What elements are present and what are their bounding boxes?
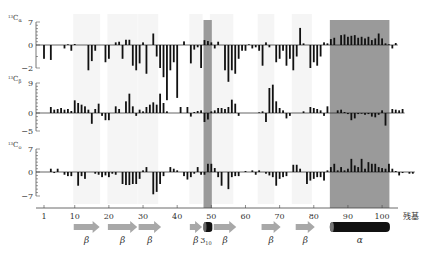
y-axis-label: 13Co bbox=[8, 141, 21, 150]
bar bbox=[176, 170, 178, 172]
bar bbox=[111, 172, 113, 174]
bar bbox=[306, 172, 308, 184]
bar bbox=[361, 159, 363, 172]
bar bbox=[207, 164, 209, 172]
bar bbox=[357, 38, 359, 45]
bar bbox=[214, 110, 216, 113]
bar bbox=[204, 40, 206, 45]
x-tick-label: 1 bbox=[41, 212, 46, 221]
bar bbox=[398, 110, 400, 113]
bar bbox=[190, 45, 192, 63]
bar bbox=[70, 172, 72, 176]
bar bbox=[371, 40, 373, 45]
bar bbox=[313, 172, 315, 179]
bar bbox=[221, 172, 223, 186]
bar bbox=[296, 45, 298, 57]
bar bbox=[152, 34, 154, 46]
bar bbox=[275, 101, 277, 113]
bar bbox=[67, 44, 69, 45]
bar bbox=[118, 109, 120, 113]
bar bbox=[275, 45, 277, 62]
bar bbox=[67, 109, 69, 113]
bar bbox=[391, 109, 393, 113]
bar bbox=[275, 172, 277, 186]
bar bbox=[139, 45, 141, 63]
bar bbox=[279, 172, 281, 179]
bar bbox=[108, 45, 110, 59]
bar bbox=[221, 108, 223, 113]
bar bbox=[84, 106, 86, 113]
bar bbox=[320, 110, 322, 113]
x-tick-label: 30 bbox=[138, 212, 148, 221]
bar bbox=[43, 45, 45, 59]
bar bbox=[378, 113, 380, 115]
bar bbox=[180, 107, 182, 113]
bar bbox=[50, 107, 52, 113]
bar bbox=[159, 45, 161, 68]
bar bbox=[292, 45, 294, 70]
bar bbox=[169, 45, 171, 70]
ylabel-sub: β bbox=[18, 78, 21, 85]
bar bbox=[74, 100, 76, 113]
bar bbox=[166, 45, 168, 100]
bar bbox=[139, 172, 141, 179]
bar bbox=[128, 172, 130, 185]
bar bbox=[156, 105, 158, 113]
bar bbox=[350, 159, 352, 172]
bar bbox=[142, 170, 144, 172]
bar bbox=[344, 112, 346, 113]
bar bbox=[159, 94, 161, 113]
bar bbox=[344, 170, 346, 172]
light-band bbox=[138, 14, 158, 204]
strand-label: β bbox=[83, 235, 89, 245]
bar bbox=[303, 111, 305, 113]
bar bbox=[286, 113, 288, 118]
bar bbox=[316, 109, 318, 113]
secondary-structure-track: ββββ310βββα bbox=[74, 221, 390, 246]
bar bbox=[316, 172, 318, 177]
bar bbox=[228, 107, 230, 113]
bar bbox=[173, 169, 175, 172]
bar bbox=[108, 172, 110, 177]
bar bbox=[156, 45, 158, 57]
bar bbox=[327, 106, 329, 113]
bar bbox=[74, 44, 76, 45]
bar bbox=[354, 113, 356, 118]
bar bbox=[234, 172, 236, 176]
bar bbox=[101, 113, 103, 116]
bar bbox=[115, 106, 117, 113]
bar bbox=[169, 167, 171, 172]
x-tick-label: 60 bbox=[240, 212, 250, 221]
bar bbox=[64, 45, 66, 48]
bar bbox=[258, 170, 260, 172]
bar bbox=[344, 34, 346, 45]
bar bbox=[139, 110, 141, 113]
bar bbox=[122, 45, 124, 59]
bar bbox=[378, 167, 380, 172]
bar bbox=[156, 172, 158, 192]
bar bbox=[333, 164, 335, 172]
bar bbox=[388, 164, 390, 172]
bar bbox=[347, 37, 349, 45]
bar bbox=[238, 45, 240, 59]
bar bbox=[87, 110, 89, 113]
bar bbox=[286, 172, 288, 176]
bar bbox=[241, 45, 243, 51]
bar bbox=[200, 45, 202, 68]
cylinder-cap bbox=[204, 222, 207, 232]
bar bbox=[374, 164, 376, 172]
strand-label: β bbox=[267, 235, 273, 245]
helix-label: α bbox=[357, 235, 363, 245]
bar bbox=[381, 38, 383, 45]
bar bbox=[268, 88, 270, 113]
bar bbox=[204, 113, 206, 122]
bar bbox=[388, 44, 390, 45]
bar bbox=[347, 113, 349, 114]
bar bbox=[385, 113, 387, 126]
bar bbox=[132, 172, 134, 184]
bar bbox=[125, 40, 127, 45]
bar bbox=[371, 164, 373, 172]
helix-310-label: 310 bbox=[200, 236, 211, 246]
bar bbox=[296, 165, 298, 172]
bar bbox=[217, 42, 219, 45]
